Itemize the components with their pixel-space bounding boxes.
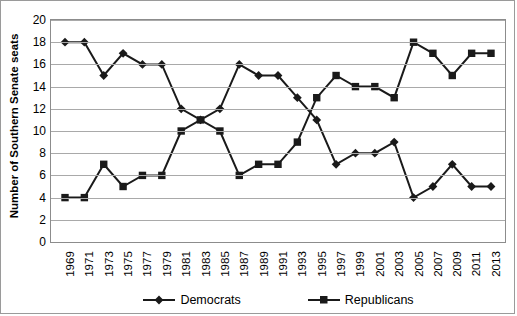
y-axis-tick: 6 (39, 168, 46, 182)
data-point-republicans (429, 50, 436, 57)
data-point-democrats (254, 71, 263, 80)
y-axis-tick: 4 (39, 191, 46, 205)
data-point-republicans (390, 94, 397, 101)
x-axis-tick: 1983 (193, 245, 207, 272)
data-point-republicans (197, 116, 204, 123)
gridline (51, 42, 505, 43)
x-axis-tick: 1991 (270, 245, 284, 272)
y-axis-tick-labels: 20181614121086420 (23, 19, 49, 243)
gridline (51, 175, 505, 176)
x-axis-tick-text: 1979 (161, 251, 173, 277)
gridline (51, 131, 505, 132)
x-axis-tick: 1971 (76, 245, 90, 272)
legend-item-democrats[interactable]: Democrats (142, 293, 240, 307)
x-axis-tick: 1979 (154, 245, 168, 272)
y-axis-tick: 12 (33, 102, 46, 116)
y-axis-tick: 20 (33, 13, 46, 27)
x-axis-tick: 1989 (251, 245, 265, 272)
data-point-republicans (274, 161, 281, 168)
gridline (51, 153, 505, 154)
gridline (51, 220, 505, 221)
x-axis-tick-text: 1981 (180, 251, 192, 277)
square-marker (307, 293, 341, 307)
x-axis-tick-text: 1991 (277, 251, 289, 277)
data-point-democrats (390, 138, 399, 147)
legend-label: Democrats (180, 293, 240, 307)
x-axis-tick: 1995 (309, 245, 323, 272)
gridline (51, 87, 505, 88)
x-axis-tick-text: 1977 (141, 251, 153, 277)
x-axis-tick-text: 1997 (335, 251, 347, 277)
data-point-republicans (100, 161, 107, 168)
gridline (51, 20, 505, 21)
x-axis-tick-text: 2007 (432, 251, 444, 277)
x-axis-tick: 2005 (406, 245, 420, 272)
x-axis-tick: 2011 (464, 245, 478, 272)
x-axis-tick-text: 1971 (83, 251, 95, 277)
x-axis-tick-text: 1989 (257, 251, 269, 277)
legend-item-republicans[interactable]: Republicans (307, 293, 414, 307)
x-axis-tick: 1987 (231, 245, 245, 272)
data-point-republicans (294, 138, 301, 145)
x-axis-tick: 1997 (328, 245, 342, 272)
x-axis-tick-text: 2003 (393, 251, 405, 277)
data-point-republicans (468, 50, 475, 57)
y-axis-tick: 0 (39, 235, 46, 249)
x-axis-tick: 1985 (212, 245, 226, 272)
gridline (51, 198, 505, 199)
data-point-republicans (313, 94, 320, 101)
x-axis-tick-text: 2005 (412, 251, 424, 277)
diamond-marker (142, 293, 176, 307)
data-point-republicans (119, 183, 126, 190)
x-axis-tick-text: 1983 (199, 251, 211, 277)
x-axis-tick-text: 1969 (64, 251, 76, 277)
x-axis-tick-text: 1993 (296, 251, 308, 277)
x-axis-tick-labels: 1969197119731975197719791981198319851987… (50, 245, 506, 289)
chart-legend: DemocratsRepublicans (50, 289, 506, 311)
data-point-republicans (332, 72, 339, 79)
x-axis-tick-text: 2011 (470, 252, 482, 277)
y-axis-tick: 2 (39, 213, 46, 227)
x-axis-tick: 1975 (115, 245, 129, 272)
x-axis-tick: 1999 (347, 245, 361, 272)
gridline (51, 109, 505, 110)
x-axis-tick-text: 2013 (490, 251, 502, 277)
x-axis-tick-text: 2009 (451, 251, 463, 277)
x-axis-tick: 2009 (444, 245, 458, 272)
data-point-republicans (255, 161, 262, 168)
x-axis-tick: 1981 (173, 245, 187, 272)
plot-area (50, 19, 506, 243)
x-axis-tick-text: 2001 (374, 251, 386, 277)
chart-container: Number of Southern Senate seats 20181614… (0, 0, 515, 314)
y-axis-label-wrap: Number of Southern Senate seats (3, 1, 25, 251)
x-axis-tick-text: 1973 (103, 251, 115, 277)
x-axis-tick: 1969 (57, 245, 71, 272)
x-axis-tick: 1993 (289, 245, 303, 272)
y-axis-tick: 10 (33, 124, 46, 138)
x-axis-tick: 2001 (367, 245, 381, 272)
x-axis-tick: 1973 (96, 245, 110, 272)
y-axis-tick: 16 (33, 57, 46, 71)
legend-label: Republicans (345, 293, 414, 307)
x-axis-tick-text: 1995 (316, 251, 328, 277)
x-axis-tick: 2013 (483, 245, 497, 272)
gridline (51, 64, 505, 65)
data-point-democrats (487, 182, 496, 191)
x-axis-tick-text: 1987 (238, 251, 250, 277)
data-point-republicans (487, 50, 494, 57)
y-axis-label: Number of Southern Senate seats (8, 34, 20, 219)
data-point-democrats (332, 160, 341, 169)
data-point-republicans (449, 72, 456, 79)
y-axis-tick: 14 (33, 80, 46, 94)
y-axis-tick: 18 (33, 35, 46, 49)
x-axis-tick-text: 1975 (122, 251, 134, 277)
x-axis-tick: 2003 (386, 245, 400, 272)
x-axis-tick: 2007 (425, 245, 439, 272)
y-axis-tick: 8 (39, 146, 46, 160)
x-axis-tick-text: 1985 (219, 251, 231, 277)
x-axis-tick-text: 1999 (354, 251, 366, 277)
x-axis-tick: 1977 (134, 245, 148, 272)
